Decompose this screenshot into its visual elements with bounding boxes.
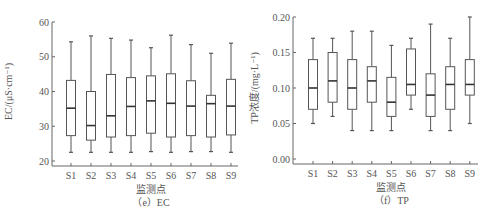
y-axis-title: EC/(μS·cm⁻¹): [3, 63, 15, 120]
y-axis-title: TP浓度/(mg·L⁻¹): [248, 52, 261, 124]
y-tick-label: 20: [39, 156, 49, 167]
box-s7: [187, 45, 196, 152]
x-tick-label: S3: [347, 168, 358, 179]
box-s2: [328, 38, 337, 116]
x-tick-label: S7: [425, 168, 436, 179]
x-tick-label: S4: [126, 170, 137, 181]
box-s4: [127, 40, 136, 152]
y-tick-label: 0.05: [273, 118, 291, 129]
tp-boxplot: 0.000.050.100.150.20TP浓度/(mg·L⁻¹)S1S2S3S…: [248, 12, 478, 207]
box-s8: [446, 38, 455, 130]
ec-boxplot: 2030405060EC/(μS·cm⁻¹)S1S2S3S4S5S6S7S8S9…: [3, 17, 238, 209]
box-s9: [227, 43, 236, 152]
box-s1: [309, 38, 318, 123]
x-tick-label: S8: [445, 168, 456, 179]
x-tick-label: S4: [367, 168, 378, 179]
box-s8: [207, 53, 216, 151]
y-tick-label: 30: [39, 121, 49, 132]
x-tick-label: S1: [308, 168, 319, 179]
y-tick-label: 0.15: [273, 47, 291, 58]
chart-canvas: 2030405060EC/(μS·cm⁻¹)S1S2S3S4S5S6S7S8S9…: [0, 0, 494, 220]
chart-caption: （f）TP: [374, 195, 409, 206]
x-tick-label: S6: [166, 170, 177, 181]
y-tick-label: 40: [39, 86, 49, 97]
x-tick-label: S7: [186, 170, 197, 181]
x-tick-label: S5: [386, 168, 397, 179]
y-tick-label: 0.10: [273, 83, 291, 94]
chart-caption: （e）EC: [132, 197, 170, 208]
x-tick-label: S9: [465, 168, 476, 179]
box-s5: [147, 48, 156, 152]
y-tick-label: 60: [39, 17, 49, 28]
y-tick-label: 0.20: [273, 12, 291, 23]
y-tick-label: 50: [39, 51, 49, 62]
box-s1: [67, 42, 76, 153]
box-s3: [348, 31, 357, 130]
box-s6: [407, 38, 416, 109]
x-axis-title: 监测点: [136, 183, 166, 195]
box-s6: [167, 35, 176, 152]
x-tick-label: S1: [66, 170, 77, 181]
y-tick-label: 0.00: [273, 154, 291, 165]
x-tick-label: S6: [406, 168, 417, 179]
box-s2: [87, 36, 96, 152]
x-tick-label: S9: [226, 170, 237, 181]
x-tick-label: S2: [86, 170, 97, 181]
x-tick-label: S8: [206, 170, 217, 181]
box-s5: [387, 45, 396, 130]
x-axis-title: 监测点: [376, 181, 406, 193]
x-tick-label: S5: [146, 170, 157, 181]
box-s3: [107, 38, 116, 152]
box-s7: [426, 24, 435, 131]
x-tick-label: S2: [327, 168, 338, 179]
box-s4: [367, 31, 376, 130]
box-s9: [465, 17, 474, 124]
x-tick-label: S3: [106, 170, 117, 181]
